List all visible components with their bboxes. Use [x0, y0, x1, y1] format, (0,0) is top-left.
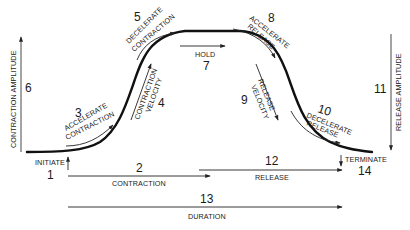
number-8: 8	[268, 11, 275, 25]
initiate-label: INITIATE	[35, 158, 65, 167]
duration-label: DURATION	[188, 212, 226, 221]
number-13: 13	[200, 192, 214, 206]
hold-label: HOLD	[195, 50, 215, 59]
number-9: 9	[241, 93, 248, 107]
terminate-label: TERMINATE	[345, 155, 387, 164]
number-11: 11	[374, 82, 387, 96]
number-6: 6	[25, 81, 32, 95]
release-label: RELEASE	[255, 173, 289, 182]
contraction-label: CONTRACTION	[112, 179, 166, 188]
contraction-profile-diagram: CONTRACTION AMPLITUDE 6 RELEASE AMPLITUD…	[0, 0, 410, 230]
release-amplitude-label: RELEASE AMPLITUDE	[394, 53, 403, 131]
number-7: 7	[203, 59, 210, 73]
number-2: 2	[136, 161, 143, 175]
contraction-amplitude-label: CONTRACTION AMPLITUDE	[9, 50, 18, 148]
number-14: 14	[358, 164, 372, 178]
number-1: 1	[47, 168, 54, 182]
number-4: 4	[158, 96, 165, 110]
number-12: 12	[265, 154, 279, 168]
